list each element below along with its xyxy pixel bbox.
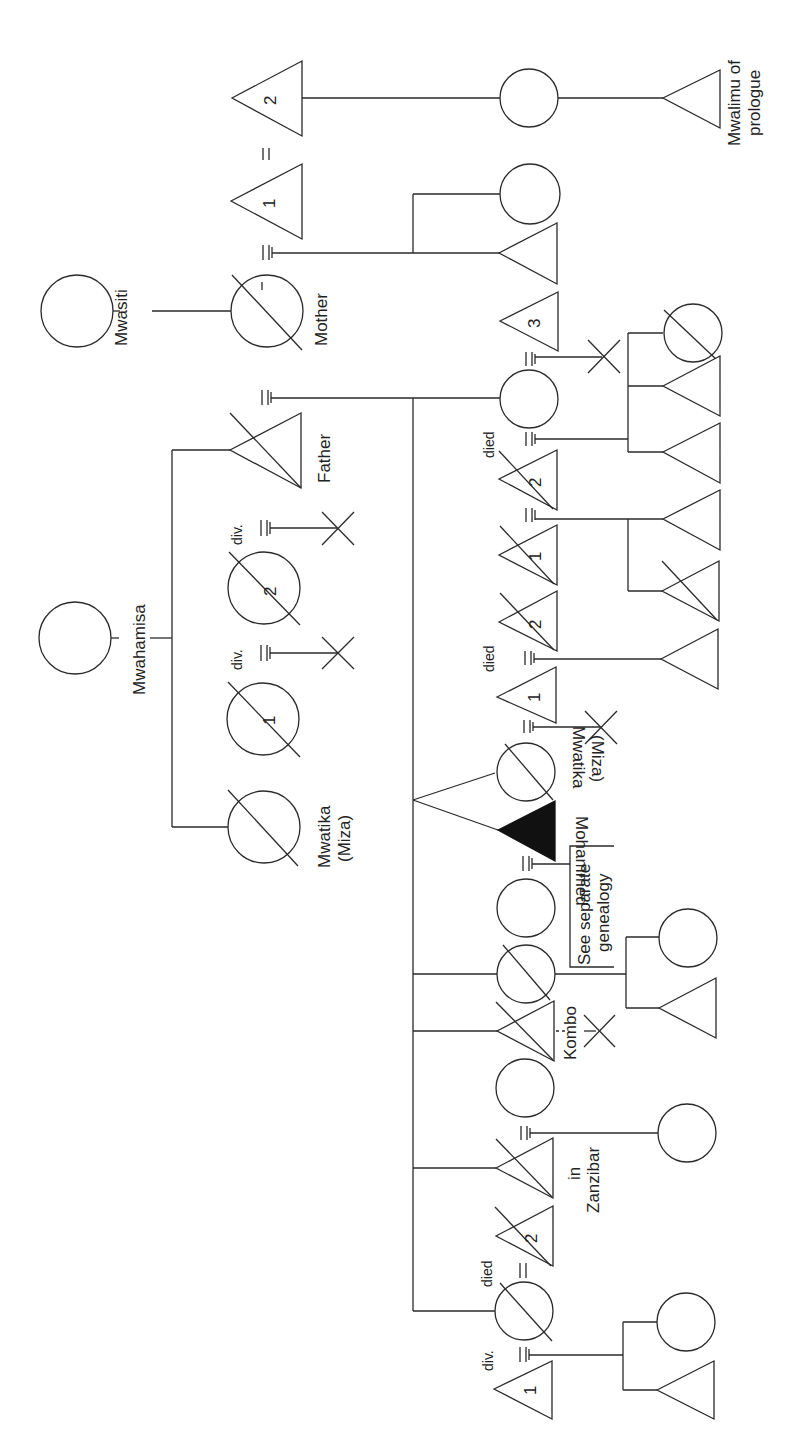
svg-text:1: 1: [260, 716, 279, 725]
mwahamisa-label: Mwahamisa: [130, 604, 149, 695]
svg-text:2: 2: [526, 478, 545, 487]
genealogy-label: genealogy: [594, 873, 613, 952]
child-male: [663, 423, 720, 483]
in-label: in: [565, 1167, 584, 1180]
div-label: div.: [229, 649, 245, 670]
svg-text:3: 3: [525, 319, 544, 328]
see-separate-label: See separate: [575, 864, 594, 965]
daughter-symbol: [500, 69, 558, 127]
mohammed-symbol: [498, 801, 555, 861]
svg-text:2: 2: [261, 587, 280, 596]
svg-text:1: 1: [525, 693, 544, 702]
child-male: [657, 1361, 714, 1419]
svg-text:2: 2: [522, 1234, 541, 1243]
genealogy-diagram: Mwasiti Mother 1 2 Mwalimu of prologue M…: [0, 0, 799, 1429]
mwalimu-symbol: [663, 70, 720, 128]
child-male: [661, 629, 718, 689]
died-label: died: [481, 432, 497, 458]
died-label: died: [481, 646, 497, 672]
svg-text:1: 1: [521, 1386, 540, 1395]
kombo-label: Kombo: [561, 1006, 580, 1060]
daughter-symbol: [496, 1059, 554, 1117]
child-female: [500, 164, 560, 224]
child-male: [663, 356, 720, 416]
child-female: [664, 304, 722, 362]
daughter-symbol: [497, 945, 555, 1003]
mwasiti-symbol: [41, 275, 113, 347]
mwalimu-label-2: prologue: [745, 70, 764, 136]
child-female: [659, 909, 717, 967]
mwalimu-label: Mwalimu of: [725, 60, 744, 146]
died-label: died: [479, 1261, 495, 1287]
div-label: div.: [480, 1350, 496, 1371]
svg-text:1: 1: [260, 199, 279, 208]
mwatika-label-inverted: Mwatika: [569, 726, 588, 789]
father-label: Father: [315, 434, 334, 483]
daughter-symbol: [495, 1282, 553, 1340]
child-male: [659, 978, 716, 1038]
svg-text:2: 2: [261, 96, 280, 105]
child-male: [499, 223, 557, 284]
wife-symbol: [497, 879, 555, 937]
svg-text:1: 1: [526, 552, 545, 561]
svg-text:2: 2: [526, 620, 545, 629]
div-label: div.: [229, 524, 245, 545]
zanzibar-label: Zanzibar: [584, 1147, 603, 1213]
child-female: [658, 1104, 716, 1162]
child-male: [663, 490, 720, 550]
mwasiti-label: Mwasiti: [112, 289, 131, 346]
child-female: [657, 1293, 715, 1351]
miza-label-inverted: (Miza): [588, 735, 607, 782]
mother-label: Mother: [312, 293, 331, 346]
mwahamisa-symbol: [39, 602, 111, 674]
mwatika-label: Mwatika: [315, 805, 334, 868]
miza-label: (Miza): [335, 815, 354, 862]
daughter-symbol: [500, 370, 558, 428]
